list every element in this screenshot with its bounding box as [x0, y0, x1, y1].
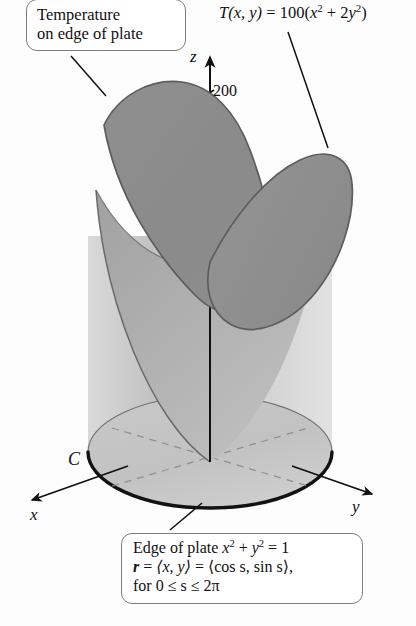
- leader-formula: [288, 32, 328, 148]
- formula-close-paren: ): [361, 3, 367, 22]
- leader-temperature: [71, 56, 106, 96]
- y-axis-label: y: [352, 497, 360, 517]
- edge-box-eq2: =: [191, 558, 208, 575]
- edge-box-line1: Edge of plate x2 + y2 = 1: [133, 539, 354, 558]
- callout-temperature-line1: Temperature: [37, 5, 176, 24]
- callout-temperature: Temperature on edge of plate: [26, 0, 186, 51]
- x-axis-label: x: [30, 505, 38, 525]
- callout-edge-of-plate: Edge of plate x2 + y2 = 1 r = ⟨x, y⟩ = ⟨…: [121, 533, 363, 604]
- formula-coefficient: 100(: [280, 3, 310, 22]
- z-axis-tick-label: 200: [213, 82, 237, 100]
- callout-temperature-line2: on edge of plate: [37, 24, 176, 43]
- temperature-formula: T(x, y) = 100(x2 + 2y2): [219, 3, 367, 23]
- edge-box-line1-prefix: Edge of plate: [133, 539, 222, 556]
- edge-box-line1-eq: = 1: [264, 539, 289, 556]
- edge-box-parametrization: ⟨cos s, sin s⟩,: [208, 558, 293, 575]
- formula-plus: + 2: [323, 3, 349, 22]
- formula-equals: =: [262, 3, 280, 22]
- formula-lhs: T(x, y): [219, 3, 262, 22]
- curve-c-label: C: [68, 449, 80, 470]
- edge-box-components: ⟨x, y⟩: [156, 558, 191, 575]
- edge-box-line3: for 0 ≤ s ≤ 2π: [133, 577, 354, 596]
- edge-box-eq1: =: [139, 558, 156, 575]
- edge-box-line1-plus: +: [235, 539, 252, 556]
- edge-box-line2: r = ⟨x, y⟩ = ⟨cos s, sin s⟩,: [133, 558, 354, 577]
- edge-box-line1-y: y: [252, 539, 259, 556]
- formula-term2-base: y: [348, 3, 355, 22]
- z-axis-label: z: [190, 47, 197, 67]
- figure-container: z 200 x y C T(x, y) = 100(x2 + 2y2) Temp…: [0, 0, 416, 626]
